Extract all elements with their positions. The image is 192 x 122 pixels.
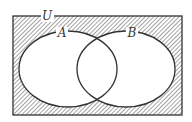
universe-label: U bbox=[42, 9, 53, 23]
set-b-label: B bbox=[127, 26, 137, 40]
venn-diagram: U A B bbox=[0, 0, 192, 122]
set-a-label: A bbox=[57, 26, 67, 40]
